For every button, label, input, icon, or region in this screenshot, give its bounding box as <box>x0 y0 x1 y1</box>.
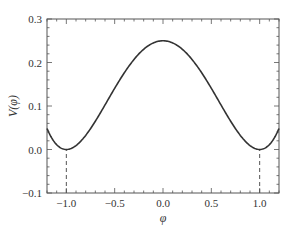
y-tick-label: 0.1 <box>28 100 42 112</box>
x-tick-label: 1.0 <box>253 197 267 209</box>
x-tick-label: −1.0 <box>56 197 76 209</box>
x-tick-label: 0.0 <box>156 197 170 209</box>
y-tick-label: 0.3 <box>28 13 42 25</box>
plot-frame <box>47 19 279 193</box>
axis-ticks <box>47 19 279 193</box>
y-tick-label: 0.0 <box>28 144 42 156</box>
dashed-reference-lines <box>66 150 259 194</box>
x-tick-label: −0.5 <box>105 197 125 209</box>
y-tick-label: 0.2 <box>28 57 42 69</box>
x-axis-label: φ <box>160 211 167 225</box>
tick-labels: −1.0−0.50.00.51.0−0.10.00.10.20.3 <box>22 13 267 209</box>
potential-chart: −1.0−0.50.00.51.0−0.10.00.10.20.3 φ V(φ) <box>0 0 291 232</box>
y-tick-label: −0.1 <box>22 187 42 199</box>
potential-curve <box>47 41 279 150</box>
x-tick-label: 0.5 <box>204 197 218 209</box>
y-axis-label: V(φ) <box>6 95 20 117</box>
